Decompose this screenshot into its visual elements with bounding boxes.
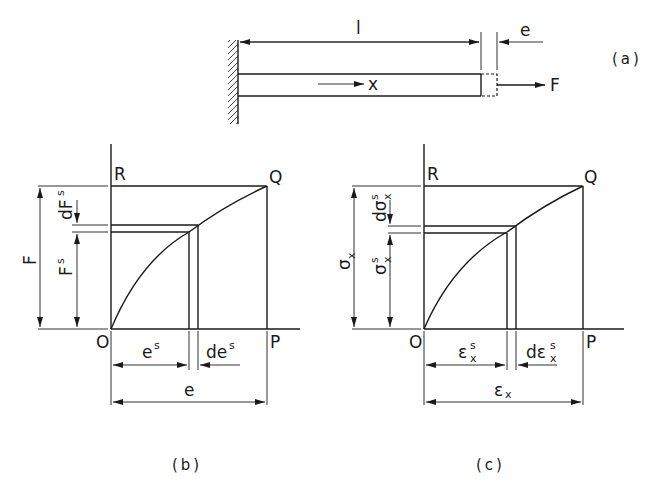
x-axis-label: x bbox=[368, 74, 378, 94]
force-label: F bbox=[550, 75, 560, 95]
length-label: l bbox=[356, 18, 361, 38]
x-partial-label: e bbox=[142, 342, 152, 362]
y-increment-label: dF bbox=[56, 199, 76, 220]
panel-b-caption: (b) bbox=[172, 456, 202, 474]
svg-text:x: x bbox=[381, 193, 394, 200]
y-partial-label: F bbox=[56, 266, 76, 276]
extension-label: e bbox=[520, 20, 530, 40]
x-total-label: e bbox=[184, 380, 194, 400]
svg-text:s: s bbox=[368, 257, 381, 263]
svg-text:x: x bbox=[381, 256, 394, 263]
x-increment-label: de bbox=[206, 342, 227, 362]
svg-text:s: s bbox=[550, 339, 556, 352]
y-total-label: F bbox=[20, 255, 40, 265]
svg-text:s: s bbox=[54, 258, 67, 264]
stress-strain-curve bbox=[424, 186, 583, 329]
y-increment-label: dσ bbox=[370, 200, 390, 222]
wall-hatching bbox=[228, 40, 238, 124]
panel-c-stress-strain-graph: σ x σ s x dσ s x R Q O P ε s x bbox=[334, 144, 624, 474]
point-q: Q bbox=[269, 167, 282, 187]
origin-o: O bbox=[409, 332, 422, 352]
panel-a-bar-diagram: l e x F (a) bbox=[228, 18, 642, 124]
diagram-canvas: l e x F (a) F F s bbox=[0, 0, 666, 491]
point-p: P bbox=[270, 332, 280, 352]
svg-text:s: s bbox=[54, 190, 67, 196]
svg-text:x: x bbox=[345, 252, 358, 259]
point-r: R bbox=[114, 164, 126, 184]
x-increment-label: dε bbox=[526, 342, 546, 362]
panel-b-force-extension-graph: F F s dF s R Q O P e s de s e (b) bbox=[20, 144, 300, 474]
point-r: R bbox=[427, 164, 439, 184]
svg-text:x: x bbox=[505, 388, 512, 401]
origin-o: O bbox=[96, 332, 109, 352]
panel-a-caption: (a) bbox=[612, 50, 642, 68]
point-q: Q bbox=[584, 167, 597, 187]
point-p: P bbox=[586, 332, 596, 352]
y-partial-label: σ bbox=[370, 264, 390, 275]
panel-c-caption: (c) bbox=[476, 456, 505, 474]
svg-text:s: s bbox=[229, 339, 235, 352]
svg-text:x: x bbox=[470, 352, 477, 365]
svg-text:s: s bbox=[154, 339, 160, 352]
extended-bar-outline bbox=[481, 74, 497, 96]
svg-text:x: x bbox=[550, 352, 557, 365]
y-total-label: σ bbox=[334, 259, 354, 270]
svg-text:s: s bbox=[470, 339, 476, 352]
x-total-label: ε bbox=[494, 380, 503, 400]
svg-text:s: s bbox=[368, 194, 381, 200]
x-partial-label: ε bbox=[458, 342, 467, 362]
